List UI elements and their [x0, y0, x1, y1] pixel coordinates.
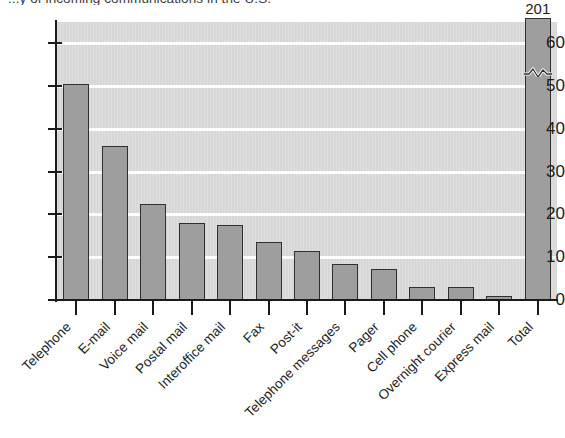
- x-tick-2: [152, 300, 154, 315]
- x-tick-1: [114, 300, 116, 315]
- bar-pager: [371, 269, 397, 300]
- y-tick-label-60: 60: [521, 34, 565, 51]
- gridline-30: [57, 171, 557, 174]
- bar-post-it: [294, 251, 320, 300]
- y-tick-30: [48, 171, 62, 173]
- x-tick-7: [344, 300, 346, 315]
- y-tick-label-10: 10: [521, 248, 565, 265]
- x-tick-10: [460, 300, 462, 315]
- chart-title-text: ...y of incoming communications in the U…: [0, 0, 565, 5]
- gridline-60: [57, 42, 557, 45]
- gridline-50: [57, 85, 557, 88]
- x-tick-11: [498, 300, 500, 315]
- y-axis-line: [55, 20, 57, 302]
- bar-postal-mail: [179, 223, 205, 300]
- x-tick-4: [229, 300, 231, 315]
- y-tick-0: [48, 299, 62, 301]
- value-label-total: 201: [513, 1, 563, 16]
- bar-telephone-messages: [332, 264, 358, 300]
- y-tick-60: [48, 42, 62, 44]
- x-axis-label-telephone: Telephone: [20, 320, 74, 374]
- bar-fax: [256, 242, 282, 300]
- bar-interoffice-mail: [217, 225, 243, 300]
- gridline-20: [57, 213, 557, 216]
- y-tick-50: [48, 85, 62, 87]
- x-tick-5: [268, 300, 270, 315]
- y-tick-label-30: 30: [521, 163, 565, 180]
- y-tick-label-0: 0: [521, 291, 565, 308]
- x-tick-3: [191, 300, 193, 315]
- chart-title: ...y of incoming communications in the U…: [0, 0, 565, 5]
- bar-e-mail: [102, 146, 128, 300]
- plot-area: 201: [57, 22, 557, 300]
- x-axis-label-fax: Fax: [241, 320, 266, 345]
- x-tick-6: [306, 300, 308, 315]
- bar-telephone: [63, 84, 89, 300]
- y-tick-10: [48, 256, 62, 258]
- y-tick-label-50: 50: [521, 77, 565, 94]
- axis-break-squiggle: [524, 65, 552, 77]
- x-axis-label-total: Total: [506, 320, 536, 350]
- x-tick-12: [537, 300, 539, 315]
- x-axis-label-pager: Pager: [346, 320, 381, 355]
- x-tick-0: [75, 300, 77, 315]
- x-tick-8: [383, 300, 385, 315]
- bar-voice-mail: [140, 204, 166, 300]
- y-tick-20: [48, 213, 62, 215]
- x-tick-9: [421, 300, 423, 315]
- gridline-40: [57, 128, 557, 131]
- y-tick-label-40: 40: [521, 120, 565, 137]
- y-tick-label-20: 20: [521, 205, 565, 222]
- chart-figure: ...y of incoming communications in the U…: [0, 0, 565, 438]
- y-tick-40: [48, 128, 62, 130]
